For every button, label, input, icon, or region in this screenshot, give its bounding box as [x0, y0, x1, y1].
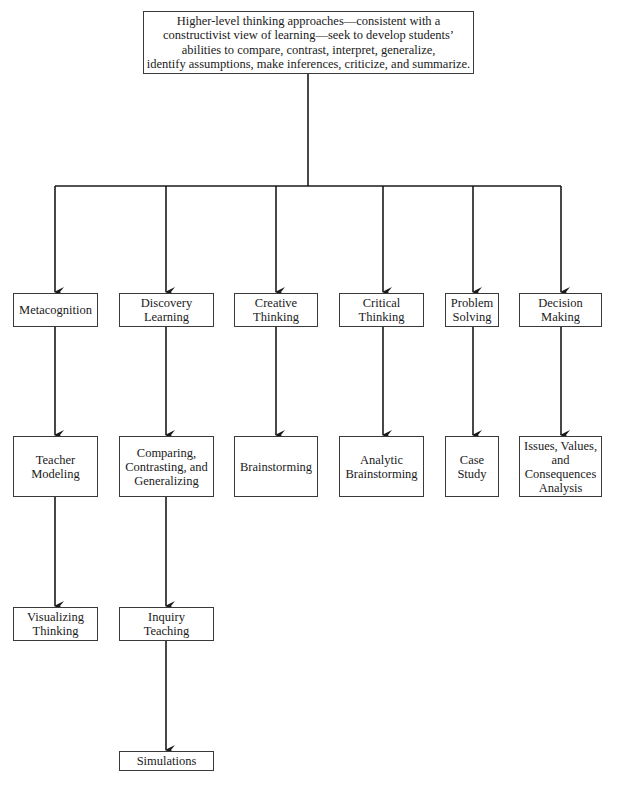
node-label: Inquiry Teaching: [144, 610, 190, 638]
node-label: Metacognition: [19, 303, 92, 317]
root-node-label: Higher-level thinking approaches—consist…: [147, 14, 471, 72]
node-visualizing-thinking: Visualizing Thinking: [13, 607, 98, 641]
node-label: Teacher Modeling: [31, 453, 80, 481]
node-label: Analytic Brainstorming: [345, 453, 417, 481]
node-label: Comparing, Contrasting, and Generalizing: [125, 446, 208, 488]
node-label: Creative Thinking: [253, 296, 299, 324]
node-creative-thinking: Creative Thinking: [234, 293, 318, 327]
root-node: Higher-level thinking approaches—consist…: [143, 11, 474, 74]
node-analytic-brainstorming: Analytic Brainstorming: [339, 436, 424, 497]
node-critical-thinking: Critical Thinking: [339, 293, 424, 327]
node-case-study: Case Study: [445, 436, 499, 497]
node-label: Brainstorming: [240, 460, 312, 474]
node-teacher-modeling: Teacher Modeling: [13, 436, 98, 497]
node-decision-making: Decision Making: [519, 293, 602, 327]
node-label: Decision Making: [538, 296, 582, 324]
node-label: Simulations: [137, 754, 197, 768]
connector-arrows: [0, 0, 622, 786]
node-label: Issues, Values, and Consequences Analysi…: [524, 439, 597, 495]
node-problem-solving: Problem Solving: [445, 293, 499, 327]
node-label: Critical Thinking: [359, 296, 405, 324]
node-simulations: Simulations: [119, 751, 214, 771]
node-label: Discovery Learning: [141, 296, 192, 324]
node-issues-values-consequences-analysis: Issues, Values, and Consequences Analysi…: [519, 436, 602, 497]
node-comparing-contrasting-generalizing: Comparing, Contrasting, and Generalizing: [119, 436, 214, 497]
node-label: Case Study: [457, 453, 486, 481]
node-metacognition: Metacognition: [13, 293, 98, 327]
concept-hierarchy-diagram: Higher-level thinking approaches—consist…: [0, 0, 622, 786]
node-brainstorming: Brainstorming: [234, 436, 318, 497]
node-inquiry-teaching: Inquiry Teaching: [119, 607, 214, 641]
node-label: Visualizing Thinking: [27, 610, 84, 638]
node-discovery-learning: Discovery Learning: [119, 293, 214, 327]
node-label: Problem Solving: [451, 296, 493, 324]
